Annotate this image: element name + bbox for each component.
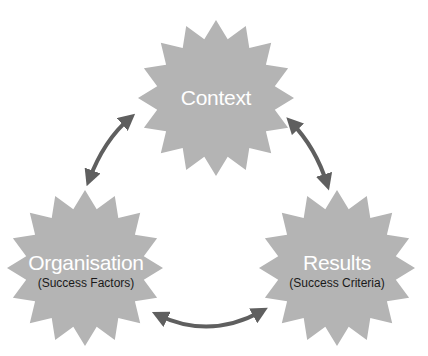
node-results-label: Results bbox=[289, 251, 384, 275]
diagram-canvas bbox=[0, 0, 428, 356]
node-context-label: Context bbox=[181, 86, 251, 110]
node-results: Results (Success Criteria) bbox=[289, 251, 384, 290]
node-results-sublabel: (Success Criteria) bbox=[289, 276, 384, 290]
arrow-organisation-results bbox=[158, 311, 262, 327]
node-organisation: Organisation (Success Factors) bbox=[28, 251, 143, 290]
arrow-organisation-context bbox=[89, 118, 130, 180]
node-context: Context bbox=[181, 86, 251, 110]
node-organisation-label: Organisation bbox=[28, 251, 143, 275]
arrow-context-results bbox=[291, 122, 327, 184]
node-organisation-sublabel: (Success Factors) bbox=[28, 276, 143, 290]
